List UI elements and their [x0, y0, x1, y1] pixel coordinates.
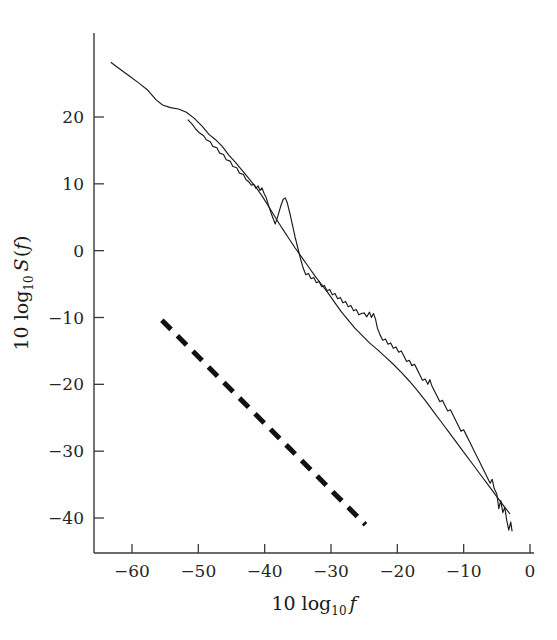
y-axis-tick-labels: 20100−10−20−30−40	[48, 107, 84, 528]
x-tick-label: −50	[180, 561, 216, 581]
x-tick-label: −10	[446, 561, 482, 581]
y-tick-label: −40	[48, 508, 84, 528]
y-axis-title: 10 log10S(f)	[10, 235, 36, 350]
x-tick-label: −20	[379, 561, 415, 581]
series-layer	[111, 62, 512, 531]
axes-group	[94, 33, 534, 553]
y-tick-label: −20	[48, 374, 84, 394]
y-axis-ticks	[94, 117, 104, 518]
x-axis-ticks	[132, 544, 530, 553]
figure-container: −60−50−40−30−20−100 20100−10−20−30−40 10…	[0, 0, 557, 640]
y-tick-label: 10	[62, 174, 84, 194]
y-tick-label: 0	[73, 241, 84, 261]
series-smooth-model-spectrum	[111, 62, 510, 514]
series-measured-jagged-spectrum	[188, 120, 512, 532]
y-tick-label: 20	[62, 107, 84, 127]
series-dashed-reference-slope	[162, 320, 366, 525]
x-tick-label: −40	[247, 561, 283, 581]
svg-text:10 log10S(f): 10 log10S(f)	[10, 235, 36, 350]
y-tick-label: −10	[48, 308, 84, 328]
svg-text:10 log10f: 10 log10f	[271, 592, 359, 618]
x-tick-label: −30	[313, 561, 349, 581]
x-axis-tick-labels: −60−50−40−30−20−100	[114, 561, 535, 581]
x-tick-label: 0	[525, 561, 536, 581]
x-axis-title: 10 log10f	[271, 592, 359, 618]
power-spectrum-chart: −60−50−40−30−20−100 20100−10−20−30−40 10…	[0, 0, 557, 640]
y-tick-label: −30	[48, 441, 84, 461]
x-tick-label: −60	[114, 561, 150, 581]
